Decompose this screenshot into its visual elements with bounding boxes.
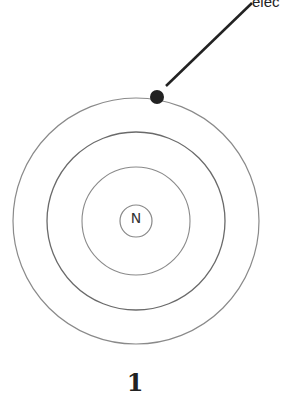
nucleus-label: N — [124, 210, 148, 226]
electron-dot — [150, 90, 164, 104]
atom-diagram — [0, 0, 289, 405]
leader-line — [166, 3, 252, 86]
figure-number: 1 — [120, 368, 150, 397]
electron-label: elec — [252, 0, 280, 10]
